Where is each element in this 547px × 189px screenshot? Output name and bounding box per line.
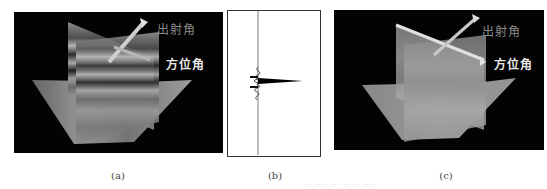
exit-angle-label-a: 出射角 (157, 20, 196, 37)
faint-footer-text: ·· ···· ··· ·· ·· ···· (305, 181, 376, 189)
panel-b-trace (227, 10, 321, 157)
panel-c-volume: 出射角 方位角 (334, 10, 544, 150)
wavelet-trace-graphic (228, 11, 319, 155)
caption-a: (a) (111, 170, 125, 181)
azimuth-angle-label-a: 方位角 (166, 55, 205, 72)
caption-b: (b) (268, 170, 282, 181)
exit-angle-label-c: 出射角 (482, 22, 521, 39)
azimuth-angle-label-c: 方位角 (494, 55, 533, 72)
caption-c: (c) (439, 170, 452, 181)
panel-a-volume: 出射角 方位角 (14, 12, 223, 153)
